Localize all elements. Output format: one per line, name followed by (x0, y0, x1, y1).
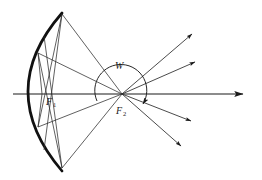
focus-two-subscript: 2 (123, 110, 126, 117)
outgoing-ray-lower-2 (122, 94, 181, 146)
cavity-rays (38, 14, 122, 168)
ray-mirror-top-to-f2 (62, 14, 122, 94)
ray-uppermid-to-f1 (38, 53, 42, 94)
outgoing-rays (122, 34, 195, 146)
ray-mirror-uppermid-to-f2 (38, 53, 122, 94)
focus-one-subscript: 1 (53, 101, 56, 108)
ray-diagram-svg: F 1 F 2 W (0, 0, 262, 180)
outgoing-ray-lower-1 (122, 94, 191, 121)
ray-mirror-bottom-to-f2 (62, 94, 122, 168)
focus-one-label: F (45, 96, 53, 107)
outgoing-ray-upper-2 (122, 62, 195, 94)
focus-two-label: F (115, 105, 123, 116)
angle-w-label: W (115, 60, 125, 71)
figure-container: F 1 F 2 W (0, 0, 262, 180)
outgoing-ray-upper-1 (122, 34, 192, 94)
